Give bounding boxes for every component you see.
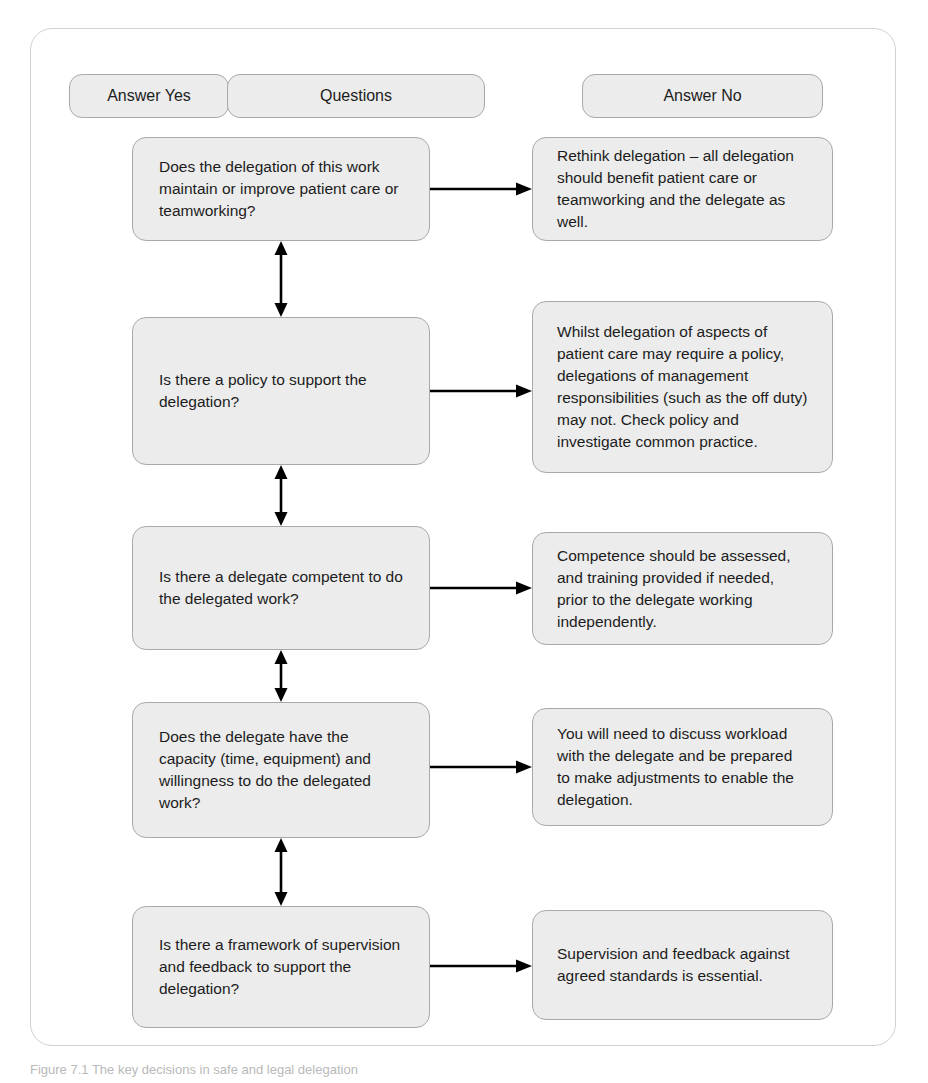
answer-text-4: You will need to discuss workload with t…: [557, 723, 808, 811]
arrow-vertical-question-1-question-2: [269, 241, 293, 317]
arrow-right-question-2-to-answer-2: [430, 379, 534, 403]
column-header-questions: Questions: [227, 74, 485, 118]
answer-box-2: Whilst delegation of aspects of patient …: [532, 301, 833, 473]
arrow-vertical-question-2-question-3: [269, 465, 293, 526]
arrow-right-question-1-to-answer-1: [430, 177, 534, 201]
arrow-vertical-question-4-question-5: [269, 838, 293, 906]
question-box-3: Is there a delegate competent to do the …: [132, 526, 430, 650]
column-header-answer-no-label: Answer No: [663, 85, 741, 108]
answer-text-5: Supervision and feedback against agreed …: [557, 943, 808, 987]
question-box-5: Is there a framework of supervision and …: [132, 906, 430, 1028]
diagram-frame: Answer Yes Questions Answer No Does the …: [30, 28, 896, 1046]
question-text-2: Is there a policy to support the delegat…: [159, 369, 403, 413]
arrow-right-question-3-to-answer-3: [430, 576, 534, 600]
question-box-4: Does the delegate have the capacity (tim…: [132, 702, 430, 838]
answer-text-3: Competence should be assessed, and train…: [557, 545, 808, 633]
column-header-answer-yes: Answer Yes: [69, 74, 229, 118]
figure-caption: Figure 7.1 The key decisions in safe and…: [30, 1062, 730, 1077]
column-header-answer-yes-label: Answer Yes: [107, 85, 191, 108]
question-box-1: Does the delegation of this work maintai…: [132, 137, 430, 241]
question-box-2: Is there a policy to support the delegat…: [132, 317, 430, 465]
answer-text-2: Whilst delegation of aspects of patient …: [557, 321, 808, 453]
arrow-vertical-question-3-question-4: [269, 650, 293, 702]
column-header-answer-no: Answer No: [582, 74, 823, 118]
question-text-3: Is there a delegate competent to do the …: [159, 566, 403, 610]
answer-box-1: Rethink delegation – all delegation shou…: [532, 137, 833, 241]
answer-text-1: Rethink delegation – all delegation shou…: [557, 145, 808, 233]
column-header-questions-label: Questions: [320, 85, 392, 108]
arrow-right-question-5-to-answer-5: [430, 954, 534, 978]
question-text-1: Does the delegation of this work maintai…: [159, 156, 403, 222]
arrow-right-question-4-to-answer-4: [430, 755, 534, 779]
question-text-5: Is there a framework of supervision and …: [159, 934, 403, 1000]
question-text-4: Does the delegate have the capacity (tim…: [159, 726, 403, 814]
answer-box-3: Competence should be assessed, and train…: [532, 532, 833, 645]
answer-box-5: Supervision and feedback against agreed …: [532, 910, 833, 1020]
answer-box-4: You will need to discuss workload with t…: [532, 708, 833, 826]
